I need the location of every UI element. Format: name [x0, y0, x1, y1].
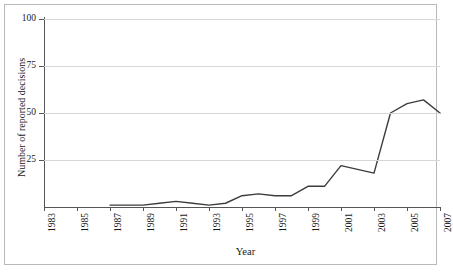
x-tick-mark	[110, 207, 111, 211]
x-tick-mark	[143, 207, 144, 211]
y-tick-mark	[39, 66, 44, 67]
x-tick-mark	[77, 207, 78, 211]
x-tick-label: 1995	[246, 213, 255, 232]
x-tick-mark	[374, 207, 375, 211]
x-tick-label: 1999	[312, 213, 321, 232]
x-tick-mark	[341, 207, 342, 211]
y-axis-tick-labels: 255075100	[0, 0, 36, 273]
gridline	[44, 160, 440, 161]
y-tick-mark	[39, 19, 44, 20]
x-tick-label: 1987	[114, 213, 123, 232]
y-tick-label: 25	[0, 155, 36, 164]
y-tick-label: 75	[0, 61, 36, 70]
x-tick-label: 2003	[378, 213, 387, 232]
x-tick-label: 1989	[147, 213, 156, 232]
x-tick-label: 1997	[279, 213, 288, 232]
x-tick-mark	[176, 207, 177, 211]
x-tick-label: 1993	[213, 213, 222, 232]
x-tick-label: 1983	[48, 213, 57, 232]
series-line-reported-decisions	[110, 100, 440, 205]
x-tick-mark	[440, 207, 441, 211]
gridline	[44, 66, 440, 67]
x-tick-label: 2007	[444, 213, 453, 232]
x-axis-title-wrap: Year	[0, 246, 445, 257]
x-tick-label: 2005	[411, 213, 420, 232]
y-tick-mark	[39, 113, 44, 114]
x-tick-mark	[44, 207, 45, 211]
x-tick-mark	[308, 207, 309, 211]
x-tick-mark	[209, 207, 210, 211]
x-tick-label: 1985	[81, 213, 90, 232]
x-tick-mark	[242, 207, 243, 211]
y-tick-mark	[39, 160, 44, 161]
x-tick-label: 2001	[345, 213, 354, 232]
y-tick-label: 50	[0, 108, 36, 117]
y-tick-label: 100	[0, 14, 36, 23]
gridline	[44, 113, 440, 114]
gridline	[44, 19, 440, 20]
x-tick-mark	[275, 207, 276, 211]
x-tick-mark	[407, 207, 408, 211]
x-tick-label: 1991	[180, 213, 189, 232]
x-axis-title: Year	[236, 246, 255, 257]
